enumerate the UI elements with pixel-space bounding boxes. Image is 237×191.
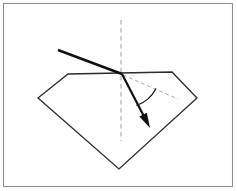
refraction-diagram-figure [0, 0, 237, 191]
diagram-canvas [0, 0, 237, 191]
